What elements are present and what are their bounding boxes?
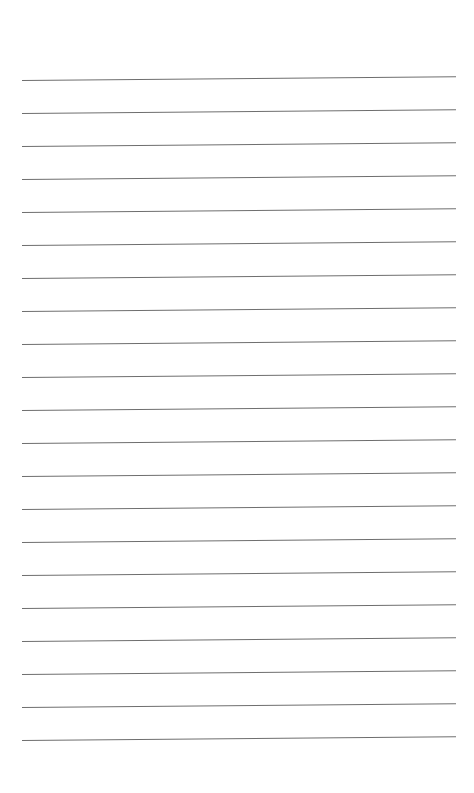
ruled-line bbox=[22, 307, 456, 312]
ruled-line bbox=[22, 142, 456, 147]
ruled-line bbox=[22, 439, 456, 444]
ruled-line bbox=[22, 538, 456, 543]
ruled-line bbox=[22, 472, 456, 477]
ruled-line bbox=[22, 208, 456, 213]
ruled-line bbox=[22, 340, 456, 345]
ruled-line bbox=[22, 406, 456, 411]
ruled-line bbox=[22, 670, 456, 675]
ruled-line bbox=[22, 109, 456, 114]
ruled-line bbox=[22, 571, 456, 576]
ruled-line bbox=[22, 76, 456, 81]
ruled-line bbox=[22, 505, 456, 510]
ruled-line bbox=[22, 637, 456, 642]
lined-page bbox=[0, 0, 474, 793]
ruled-line bbox=[22, 373, 456, 378]
ruled-line bbox=[22, 703, 456, 708]
ruled-line bbox=[22, 274, 456, 279]
ruled-line bbox=[22, 241, 456, 246]
ruled-line bbox=[22, 604, 456, 609]
ruled-line bbox=[22, 175, 456, 180]
ruled-line bbox=[22, 736, 456, 741]
